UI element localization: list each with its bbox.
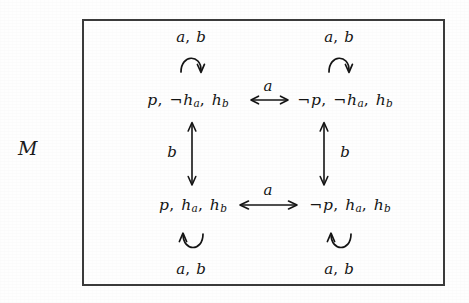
state-bottom-left-h-a: h (181, 196, 191, 214)
model-label: M (18, 137, 38, 159)
state-top-right-p: p (311, 91, 321, 109)
state-top-left-comma-2: , (200, 91, 207, 109)
state-bottom-left-sub-a: a (192, 202, 198, 214)
state-top-right-neg-p: ¬ (297, 91, 311, 109)
state-top-right-h-b: h (376, 91, 386, 109)
state-top-right-sub-b: b (386, 97, 393, 109)
edge-label-left-vertical: b (167, 143, 177, 161)
state-top-left: p, ¬ha, hb (147, 91, 229, 109)
loop-label-bottom-left: a, b (176, 260, 206, 278)
loop-top-left-b: b (196, 28, 206, 46)
state-top-left-comma-1: , (157, 91, 164, 109)
figure-page: M a, b a, b a, b a, b p, ¬ha, hb ¬p, ¬ha… (0, 0, 469, 303)
loop-top-left-comma: , (185, 28, 191, 46)
loop-label-bottom-right: a, b (324, 260, 354, 278)
loop-bottom-left-a: a (176, 260, 185, 278)
state-bottom-left: p, ha, hb (159, 196, 227, 214)
state-bottom-left-comma-2: , (198, 196, 205, 214)
loop-bottom-left-b: b (196, 260, 206, 278)
loop-top-left-a: a (176, 28, 185, 46)
state-bottom-right-p: p (323, 196, 333, 214)
state-top-left-neg: ¬ (169, 91, 183, 109)
state-bottom-right-h-a: h (345, 196, 355, 214)
state-top-right: ¬p, ¬ha, hb (297, 91, 392, 109)
state-bottom-right-sub-a: a (356, 202, 362, 214)
state-bottom-left-comma-1: , (169, 196, 176, 214)
state-bottom-right: ¬p, ha, hb (309, 196, 391, 214)
state-top-left-sub-a: a (194, 97, 200, 109)
state-bottom-left-sub-b: b (220, 202, 227, 214)
state-top-left-h-a: h (183, 91, 193, 109)
state-bottom-left-p: p (159, 196, 169, 214)
loop-bottom-left-comma: , (185, 260, 191, 278)
loop-top-right-a: a (324, 28, 333, 46)
loop-label-top-left: a, b (176, 28, 206, 46)
state-top-left-h-b: h (212, 91, 222, 109)
loop-bottom-right-b: b (344, 260, 354, 278)
state-bottom-right-comma-1: , (333, 196, 340, 214)
edge-label-bottom-horizontal: a (264, 181, 273, 199)
state-top-right-h-a: h (347, 91, 357, 109)
edge-label-top-horizontal: a (264, 77, 273, 95)
state-bottom-left-h-b: h (210, 196, 220, 214)
state-bottom-right-sub-b: b (384, 202, 391, 214)
state-top-right-neg: ¬ (333, 91, 347, 109)
state-top-left-sub-b: b (222, 97, 229, 109)
state-bottom-right-comma-2: , (362, 196, 369, 214)
state-top-right-comma-2: , (364, 91, 371, 109)
loop-top-right-b: b (344, 28, 354, 46)
model-frame (82, 19, 445, 286)
loop-label-top-right: a, b (324, 28, 354, 46)
state-top-left-p: p (147, 91, 157, 109)
state-top-right-comma-1: , (321, 91, 328, 109)
loop-bottom-right-comma: , (333, 260, 339, 278)
loop-top-right-comma: , (333, 28, 339, 46)
state-bottom-right-neg-p: ¬ (309, 196, 323, 214)
edge-label-right-vertical: b (340, 143, 350, 161)
loop-bottom-right-a: a (324, 260, 333, 278)
state-bottom-right-h-b: h (374, 196, 384, 214)
